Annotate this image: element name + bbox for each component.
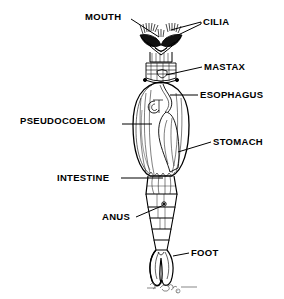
gastric-coil-inner bbox=[152, 104, 157, 111]
label-esophagus: ESOPHAGUS bbox=[200, 90, 263, 100]
label-cilia: CILIA bbox=[203, 17, 229, 27]
label-foot: FOOT bbox=[191, 248, 219, 258]
label-mastax: MASTAX bbox=[204, 62, 245, 72]
stomach-inner-fold-2 bbox=[171, 118, 174, 166]
anus-pore-center bbox=[163, 203, 165, 205]
body-striations-left bbox=[140, 90, 154, 174]
rotifer-anatomy-illustration: C bbox=[0, 0, 284, 299]
trunk-body bbox=[133, 82, 189, 176]
stomach-sac bbox=[159, 112, 179, 172]
foot-segment-5 bbox=[154, 240, 169, 250]
intestine-folds bbox=[152, 176, 171, 194]
foot-segment-texture bbox=[157, 194, 165, 229]
gastric-coil bbox=[148, 101, 159, 113]
body-striations-right bbox=[172, 93, 182, 173]
foot-region bbox=[146, 194, 177, 286]
foot-toe-right bbox=[162, 250, 173, 285]
leader-lines bbox=[121, 19, 211, 256]
head-texture bbox=[152, 53, 168, 62]
rotifer-diagram-page: C MOUTH CILIA MASTAX ESOPHAGUS PSEUDOCOE… bbox=[0, 0, 284, 299]
label-intestine: INTESTINE bbox=[57, 173, 109, 183]
head-block bbox=[150, 52, 172, 62]
foot-segment-2 bbox=[148, 207, 175, 218]
esophagus-tube-inner bbox=[160, 85, 169, 112]
foot-segment-3 bbox=[150, 218, 173, 229]
label-stomach: STOMACH bbox=[213, 137, 263, 147]
foot-segment-1 bbox=[146, 194, 177, 207]
esophagus-tube bbox=[163, 84, 172, 112]
foot-segment-4 bbox=[152, 229, 171, 240]
artist-signature: C bbox=[147, 283, 197, 294]
intestine-region bbox=[146, 176, 177, 194]
label-mouth: MOUTH bbox=[85, 12, 121, 22]
corona-right-wing bbox=[161, 34, 182, 46]
label-anus: ANUS bbox=[102, 212, 130, 222]
intestine-outline bbox=[146, 176, 177, 194]
leader-line-stomach bbox=[178, 142, 211, 152]
foot-toe-inner-left bbox=[155, 252, 159, 279]
neck-bands bbox=[146, 66, 176, 74]
pseudocoelom-cavity bbox=[141, 110, 150, 170]
leader-line-foot bbox=[173, 253, 189, 256]
label-pseudocoelom: PSEUDOCOELOM bbox=[20, 116, 105, 126]
foot-toe-inner-right bbox=[165, 252, 169, 279]
